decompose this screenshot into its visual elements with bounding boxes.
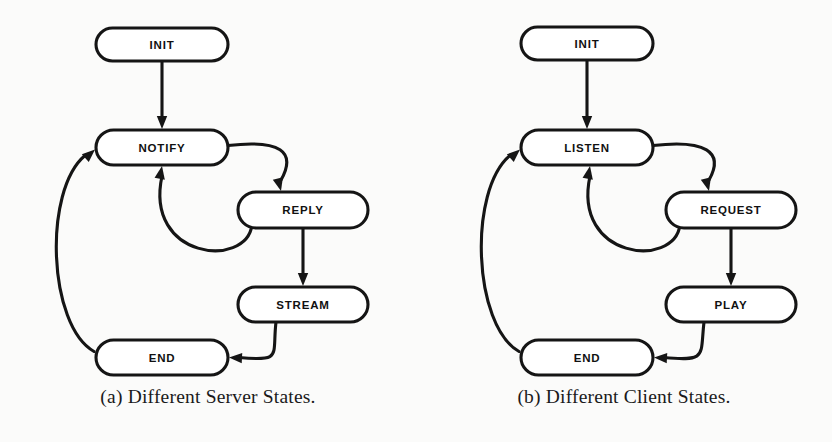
state-node-label: REQUEST [700,204,761,216]
edge-init-to-listen [582,60,592,129]
state-node-label: STREAM [276,299,329,311]
edge-end-to-notify [56,150,95,352]
state-node-init[interactable]: INIT [521,27,653,60]
state-node-play[interactable]: PLAY [666,287,796,322]
edge-request-to-play [726,228,736,286]
state-node-label: INIT [150,39,175,51]
client-state-diagram: INITLISTENREQUESTPLAYEND [416,0,832,390]
state-node-label: END [574,352,601,364]
state-node-label: REPLY [282,204,323,216]
subfigure-server-states: INITNOTIFYREPLYSTREAMEND (a) Different S… [0,0,416,442]
subfigure-a-caption: (a) Different Server States. [0,386,416,408]
state-node-notify[interactable]: NOTIFY [96,130,228,165]
state-node-end[interactable]: END [521,340,653,375]
node-layer: INITNOTIFYREPLYSTREAMEND [96,28,368,375]
edge-end-to-listen [481,150,520,352]
state-node-label: NOTIFY [139,142,186,154]
server-state-diagram: INITNOTIFYREPLYSTREAMEND [0,0,416,390]
state-node-end[interactable]: END [96,340,228,375]
state-node-label: END [149,352,176,364]
state-node-stream[interactable]: STREAM [238,287,368,322]
state-node-init[interactable]: INIT [96,28,228,61]
subfigure-b-caption: (b) Different Client States. [416,386,832,408]
state-node-listen[interactable]: LISTEN [521,130,653,165]
edge-notify-to-reply [228,144,287,191]
state-node-label: LISTEN [564,142,610,154]
figure-root: INITNOTIFYREPLYSTREAMEND (a) Different S… [0,0,832,442]
state-node-label: INIT [575,38,600,50]
state-node-label: PLAY [715,299,748,311]
edge-stream-to-end [229,322,276,363]
edge-init-to-notify [157,61,167,129]
node-layer: INITLISTENREQUESTPLAYEND [521,27,796,375]
edge-play-to-end [654,322,704,363]
edge-reply-to-stream [298,228,308,286]
edge-listen-to-request [653,144,714,191]
state-node-request[interactable]: REQUEST [666,192,796,228]
subfigure-client-states: INITLISTENREQUESTPLAYEND (b) Different C… [416,0,832,442]
state-node-reply[interactable]: REPLY [238,192,368,228]
